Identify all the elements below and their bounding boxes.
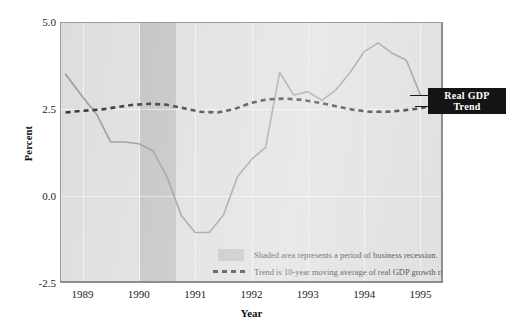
x-axis-tick-label: 1991 [165, 288, 225, 300]
x-axis-tick-label: 1993 [278, 288, 338, 300]
y-axis-tick-label: -2.5 [4, 278, 56, 289]
x-axis-tick-label: 1995 [390, 288, 450, 300]
recession-swatch-icon [208, 248, 254, 262]
plot-area: Shaded area represents a period of busin… [60, 22, 443, 283]
trend-callout: Trend [428, 99, 506, 114]
x-axis-title: Year [60, 307, 443, 319]
x-axis-tick-label: 1994 [334, 288, 394, 300]
legend-row-trend: Trend is 10-year moving average of real … [208, 263, 443, 280]
chart-legend: Shaded area represents a period of busin… [208, 246, 443, 280]
x-axis-tick-label: 1992 [222, 288, 282, 300]
legend-label-trend: Trend is 10-year moving average of real … [254, 267, 443, 277]
real-gdp-line [66, 43, 421, 233]
x-axis-tick-label: 1990 [109, 288, 169, 300]
gdp-growth-chart-figure: Shaded area represents a period of busin… [0, 0, 524, 334]
legend-label-recession: Shaded area represents a period of busin… [254, 250, 438, 260]
trend-leader-line [415, 106, 428, 107]
y-axis-title: Percent [23, 104, 34, 184]
dashed-line-swatch-icon [208, 265, 254, 279]
x-axis-tick-label: 1989 [53, 288, 113, 300]
series-plot [60, 22, 443, 283]
y-axis-tick-label: 5.0 [4, 17, 56, 28]
real-gdp-leader-line [410, 95, 428, 96]
trend-line [66, 99, 429, 113]
legend-row-recession: Shaded area represents a period of busin… [208, 246, 443, 263]
y-axis-tick-label: 0.0 [4, 191, 56, 202]
